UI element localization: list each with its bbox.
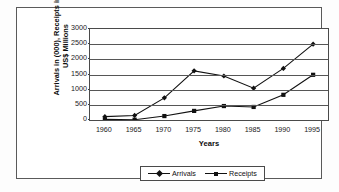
- gridline: [90, 90, 328, 91]
- data-point-marker: [103, 117, 107, 120]
- x-axis-tick-label: 1960: [96, 125, 112, 134]
- data-point-marker: [281, 93, 285, 97]
- x-axis-tick-label: 1990: [274, 125, 290, 134]
- legend-label: Arrivals: [172, 169, 196, 178]
- data-point-marker: [192, 109, 196, 113]
- y-axis-tick-labels: 050010001500200025003000: [57, 22, 87, 127]
- x-axis-tick-label: 1995: [304, 125, 320, 134]
- x-axis-tick-label: 1975: [185, 125, 201, 134]
- chart-figure: Arrivals in (000), Receipts in US$ Milli…: [0, 0, 339, 192]
- gridline: [90, 105, 328, 106]
- legend-item-arrivals[interactable]: Arrivals: [148, 169, 196, 178]
- gridline: [90, 75, 328, 76]
- legend-label: Receipts: [229, 169, 257, 178]
- gridline: [90, 44, 328, 45]
- y-axis-tick-label: 500: [75, 100, 87, 108]
- y-axis-tick-label: 2500: [71, 39, 87, 47]
- x-axis-tick-label: 1985: [245, 125, 261, 134]
- data-point-marker: [132, 113, 137, 118]
- x-axis-title: Years: [89, 139, 329, 148]
- y-axis-tick-label: 2000: [71, 54, 87, 62]
- chart-legend: ArrivalsReceipts: [140, 166, 265, 181]
- x-axis-tick-label: 1965: [126, 125, 142, 134]
- legend-item-receipts[interactable]: Receipts: [205, 169, 257, 178]
- data-point-marker: [133, 118, 137, 120]
- diamond-marker-icon: [155, 170, 162, 177]
- y-axis-tick-label: 3000: [71, 24, 87, 32]
- y-axis-tick-label: 0: [83, 115, 87, 123]
- diamond-marker-icon: [148, 173, 170, 174]
- series-line-receipts: [105, 75, 313, 120]
- y-axis-tick-label: 1500: [71, 70, 87, 78]
- x-axis-tick-label: 1970: [155, 125, 171, 134]
- y-axis-tick-label: 1000: [71, 85, 87, 93]
- x-axis-tick-label: 1980: [215, 125, 231, 134]
- gridline: [90, 59, 328, 60]
- plot-area: [89, 28, 329, 121]
- figure-border: Arrivals in (000), Receipts in US$ Milli…: [16, 7, 322, 179]
- square-marker-icon: [205, 173, 227, 174]
- data-point-marker: [162, 114, 166, 118]
- square-marker-icon: [214, 172, 218, 176]
- x-axis-tick-labels: 19601965197019751980198519901995: [89, 125, 329, 137]
